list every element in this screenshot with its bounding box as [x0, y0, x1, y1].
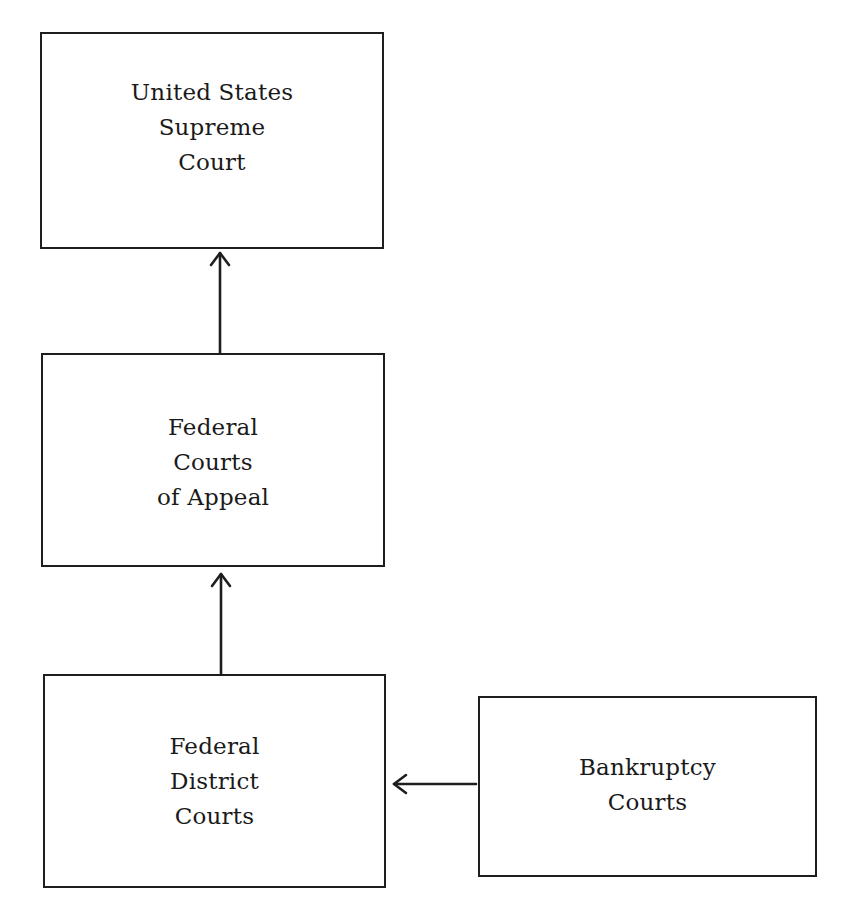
label-line: of Appeal: [157, 480, 269, 515]
arrow-left-icon: [394, 775, 476, 793]
court-hierarchy-diagram: United States Supreme Court Federal Cour…: [0, 0, 862, 922]
district-courts-label: Federal District Courts: [169, 729, 259, 834]
bankruptcy-courts-box: Bankruptcy Courts: [478, 696, 817, 877]
label-line: United States: [131, 75, 293, 110]
label-line: Federal: [169, 729, 259, 764]
courts-of-appeal-label: Federal Courts of Appeal: [157, 410, 269, 515]
supreme-court-label: United States Supreme Court: [131, 75, 293, 180]
label-line: Court: [131, 145, 293, 180]
label-line: Federal: [157, 410, 269, 445]
supreme-court-box: United States Supreme Court: [40, 32, 384, 249]
bankruptcy-courts-label: Bankruptcy Courts: [579, 750, 716, 820]
label-line: Courts: [579, 785, 716, 820]
courts-of-appeal-box: Federal Courts of Appeal: [41, 353, 385, 567]
label-line: Courts: [157, 445, 269, 480]
label-line: Supreme: [131, 110, 293, 145]
label-line: Courts: [169, 799, 259, 834]
arrow-up-icon: [211, 253, 229, 353]
label-line: District: [169, 764, 259, 799]
arrow-up-icon: [212, 574, 230, 674]
district-courts-box: Federal District Courts: [43, 674, 386, 888]
label-line: Bankruptcy: [579, 750, 716, 785]
